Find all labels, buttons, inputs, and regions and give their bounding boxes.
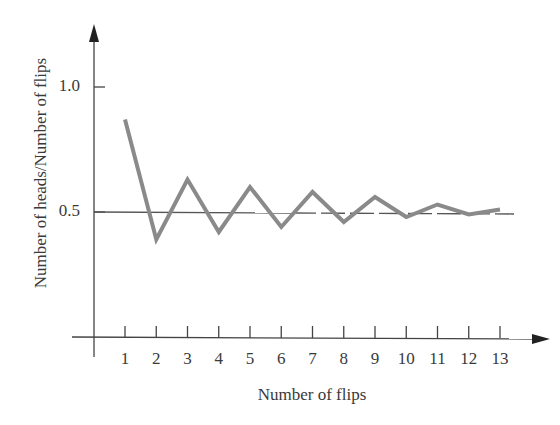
y-axis-label: Number of heads/Number of flips bbox=[31, 23, 53, 323]
x-tick-label: 5 bbox=[246, 349, 255, 369]
x-axis bbox=[72, 337, 540, 339]
x-tick-label: 7 bbox=[308, 349, 317, 369]
x-tick-label: 11 bbox=[429, 349, 445, 369]
x-tick-label: 13 bbox=[492, 349, 509, 369]
y-ticks bbox=[94, 87, 105, 212]
x-ticks bbox=[125, 326, 500, 338]
x-tick-label: 12 bbox=[460, 349, 477, 369]
x-tick-label: 9 bbox=[371, 349, 380, 369]
x-tick-label: 8 bbox=[340, 349, 349, 369]
x-tick-label: 10 bbox=[398, 349, 415, 369]
x-tick-label: 2 bbox=[152, 349, 161, 369]
x-axis-arrow-icon bbox=[532, 334, 550, 344]
y-axis-arrow-icon bbox=[89, 24, 99, 42]
x-axis-label: Number of flips bbox=[258, 385, 367, 405]
x-tick-label: 3 bbox=[183, 349, 192, 369]
x-tick-label: 4 bbox=[215, 349, 224, 369]
data-series-line bbox=[125, 120, 500, 240]
x-tick-label: 6 bbox=[277, 349, 286, 369]
reference-line-0-5 bbox=[94, 212, 514, 214]
x-tick-label: 1 bbox=[121, 349, 130, 369]
